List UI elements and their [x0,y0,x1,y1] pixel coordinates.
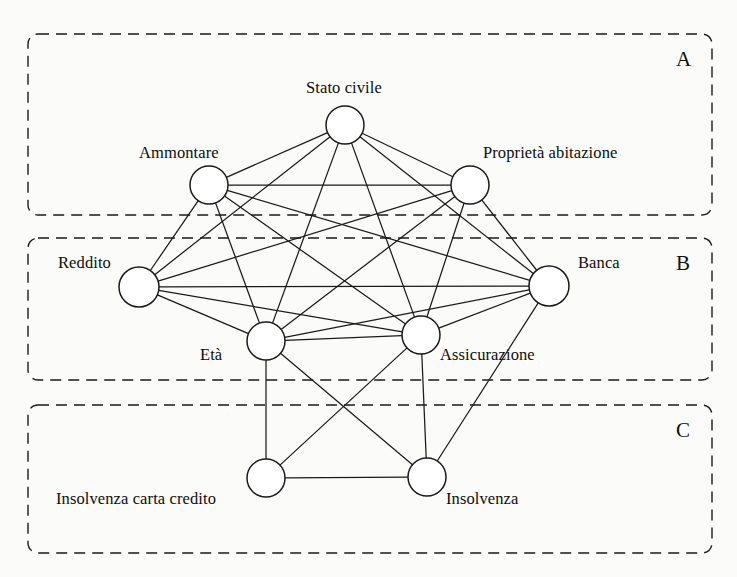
edge-reddito--banca [159,286,529,287]
node-banca[interactable] [529,266,569,306]
node-label-insolvenza: Insolvenza [446,489,518,509]
tier-label-c: C [676,418,690,443]
edge-banca--insolvenza [437,303,538,461]
node-insolvenza[interactable] [408,458,446,496]
tier-label-a: A [676,47,691,72]
node-label-eta: Età [200,345,222,365]
node-label-reddito: Reddito [58,253,111,273]
node-assicurazione[interactable] [402,316,440,354]
tier-box-c [28,405,712,553]
edge-stato_civile--ammontare [226,133,327,178]
node-proprieta[interactable] [451,166,489,204]
node-reddito[interactable] [119,267,159,307]
node-label-ammontare: Ammontare [139,143,219,163]
node-label-proprieta: Proprietà abitazione [483,143,617,163]
edge-proprieta--reddito [158,191,452,282]
node-stato_civile[interactable] [326,106,364,144]
node-label-banca: Banca [578,253,620,273]
edge-assicurazione--insolvenza_cc [280,348,407,465]
node-ammontare[interactable] [190,166,228,204]
edge-proprieta--banca [482,200,537,270]
node-eta[interactable] [247,322,285,360]
node-label-stato_civile: Stato civile [306,78,382,98]
edge-eta--assicurazione [285,336,402,341]
edge-reddito--eta [157,295,248,334]
edge-eta--insolvenza [281,353,413,464]
edge-insolvenza_cc--insolvenza [285,477,408,478]
tier-box-a [28,34,712,215]
node-insolvenza_cc[interactable] [247,459,285,497]
tier-label-b: B [676,251,690,276]
node-label-assicurazione: Assicurazione [440,345,535,365]
node-group [119,106,569,497]
edge-stato_civile--eta [273,143,339,323]
edge-ammontare--eta [216,203,260,323]
edge-assicurazione--insolvenza [422,354,426,458]
edge-proprieta--assicurazione [427,203,464,317]
node-label-insolvenza_cc: Insolvenza carta credito [56,489,216,509]
edge-stato_civile--proprieta [362,133,453,177]
